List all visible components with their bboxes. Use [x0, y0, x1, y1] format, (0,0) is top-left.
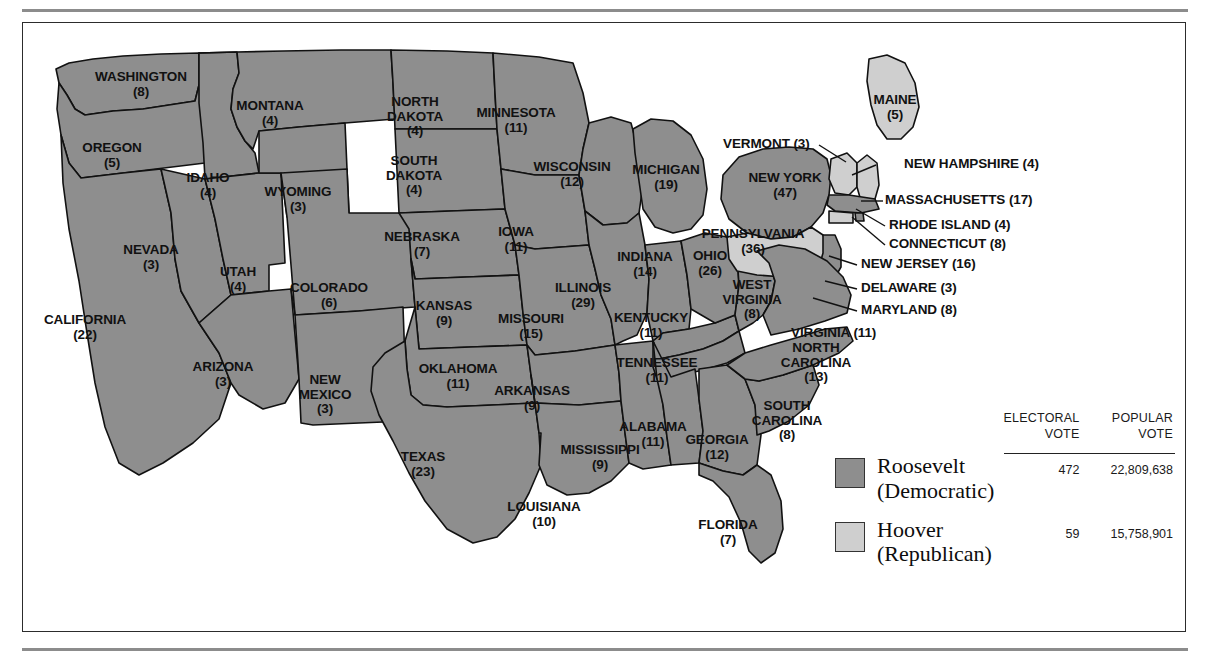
legend-color-swatch-roosevelt	[835, 458, 865, 488]
legend-row-gap	[835, 504, 1175, 518]
figure-root: WASHINGTON(8)OREGON(5)CALIFORNIA(22)IDAH…	[0, 0, 1210, 662]
results-table: ELECTORAL VOTE POPULAR VOTE Ro	[835, 411, 1175, 567]
electoral-vote-header-line2: VOTE	[1045, 427, 1080, 441]
results-table-body: Roosevelt(Democratic)47222,809,638Hoover…	[835, 454, 1175, 567]
legend-row: Roosevelt(Democratic)47222,809,638	[835, 454, 1175, 503]
state-shape-colorado	[281, 169, 415, 315]
legend-candidate-party: (Democratic)	[877, 479, 994, 504]
legend-popular-vote-value: 22,809,638	[1087, 454, 1175, 503]
state-shape-connecticut	[829, 211, 853, 223]
legend-candidate-cell: Roosevelt(Democratic)	[835, 454, 1004, 503]
popular-vote-header-rule	[1087, 445, 1175, 454]
figure-frame: WASHINGTON(8)OREGON(5)CALIFORNIA(22)IDAH…	[22, 22, 1186, 632]
electoral-vote-header-rule	[1004, 445, 1088, 454]
legend-row: Hoover(Republican)5915,758,901	[835, 518, 1175, 567]
legend-candidate-cell: Hoover(Republican)	[835, 518, 1004, 567]
top-divider-rule	[22, 9, 1188, 12]
legend-popular-vote-value: 15,758,901	[1087, 518, 1175, 567]
state-shape-north-carolina	[727, 327, 853, 381]
state-shape-iowa	[501, 169, 589, 249]
legend-electoral-vote-value: 59	[1004, 518, 1088, 567]
state-shape-new-york	[721, 147, 831, 239]
results-legend: ELECTORAL VOTE POPULAR VOTE Ro	[835, 411, 1175, 567]
state-shape-new-hampshire	[857, 155, 879, 201]
electoral-vote-header: ELECTORAL VOTE	[1004, 411, 1088, 445]
electoral-vote-header-line1: ELECTORAL	[1004, 411, 1080, 425]
bottom-divider-rule	[22, 648, 1188, 651]
popular-vote-header: POPULAR VOTE	[1087, 411, 1175, 445]
state-shape-maine	[867, 55, 919, 139]
popular-vote-header-line1: POPULAR	[1112, 411, 1173, 425]
legend-color-swatch-hoover	[835, 522, 865, 552]
state-shape-michigan	[633, 119, 707, 233]
legend-spacer-header	[835, 411, 1004, 445]
state-shape-arkansas	[527, 345, 621, 405]
popular-vote-header-line2: VOTE	[1138, 427, 1173, 441]
legend-candidate-name: Hoover	[877, 518, 992, 543]
state-shape-south-dakota	[395, 129, 505, 213]
state-shapes-layer	[56, 50, 919, 563]
legend-electoral-vote-value: 472	[1004, 454, 1088, 503]
legend-candidate-party: (Republican)	[877, 542, 992, 567]
legend-candidate-name: Roosevelt	[877, 454, 994, 479]
state-shape-north-dakota	[391, 50, 497, 129]
state-shape-massachusetts	[827, 195, 879, 213]
state-shape-minnesota	[493, 53, 589, 175]
state-shape-nebraska	[399, 209, 519, 279]
leader-line-connecticut	[852, 217, 885, 245]
state-shape-florida	[699, 463, 783, 563]
